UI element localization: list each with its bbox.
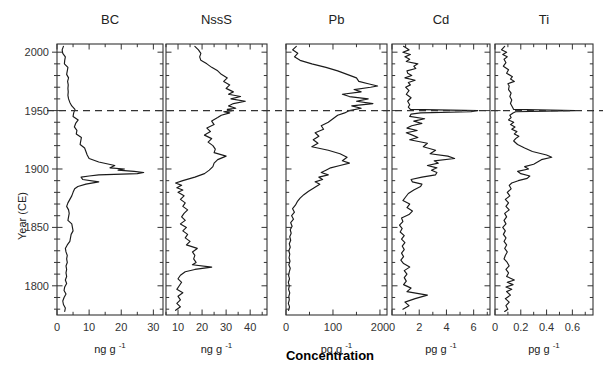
multi-panel-profile-figure: BCNssSPbCdTi180018501900195020000102030n…: [0, 0, 616, 374]
unit-label-bc: ng g -1: [94, 341, 126, 355]
data-line-nsss: [176, 46, 246, 310]
panel-title-bc: BC: [101, 12, 119, 27]
y-axis-label: Year (CE): [16, 192, 28, 240]
x-ticks: [166, 44, 262, 315]
x-tick-label-ti-2: 0.4: [539, 321, 554, 333]
x-axis-label: Concentration: [286, 348, 374, 363]
x-ticks: [57, 44, 153, 315]
x-tick-label-ti-3: 0.6: [565, 321, 580, 333]
x-tick-label-ti-1: 0.2: [513, 321, 528, 333]
x-tick-label-bc-2: 20: [115, 321, 127, 333]
unit-label-nsss: ng g -1: [201, 341, 233, 355]
x-tick-label-ti-0: 0: [492, 321, 498, 333]
panel-cd: [392, 44, 490, 315]
x-tick-label-nsss-3: 40: [244, 321, 256, 333]
chart-canvas: [0, 0, 616, 374]
unit-exponent: -1: [553, 341, 560, 350]
panel-title-nsss: NssS: [201, 12, 232, 27]
data-line-ti: [501, 46, 575, 311]
x-tick-label-pb-0: 0: [283, 321, 289, 333]
x-tick-label-cd-0: 0: [389, 321, 395, 333]
panel-frame: [57, 44, 163, 315]
unit-base: pg g: [425, 343, 449, 355]
panel-title-pb: Pb: [329, 12, 345, 27]
y-tick-label-1900: 1900: [0, 163, 49, 175]
x-ticks: [286, 44, 380, 315]
unit-label-cd: pg g -1: [425, 341, 457, 355]
x-tick-label-nsss-0: 10: [172, 321, 184, 333]
panel-title-cd: Cd: [433, 12, 450, 27]
unit-base: ng g: [201, 343, 225, 355]
unit-exponent: -1: [450, 341, 457, 350]
x-tick-label-cd-2: 4: [443, 321, 449, 333]
panel-ti: [495, 44, 593, 315]
x-tick-label-pb-2: 200: [371, 321, 389, 333]
panel-frame: [495, 44, 593, 315]
unit-base: ng g: [94, 343, 118, 355]
unit-exponent: -1: [225, 341, 232, 350]
unit-base: pg g: [528, 343, 552, 355]
x-tick-label-bc-0: 0: [54, 321, 60, 333]
y-ticks: [392, 52, 490, 309]
x-tick-label-nsss-2: 30: [220, 321, 232, 333]
y-tick-label-2000: 2000: [0, 46, 49, 58]
unit-label-ti: pg g -1: [528, 341, 560, 355]
data-line-cd: [399, 46, 477, 309]
x-tick-label-bc-1: 10: [83, 321, 95, 333]
panel-pb: [286, 44, 387, 315]
panel-nsss: [166, 44, 267, 315]
x-tick-label-nsss-1: 20: [196, 321, 208, 333]
panel-bc: [52, 44, 163, 315]
data-line-pb: [288, 46, 377, 310]
y-ticks: [286, 52, 387, 309]
x-tick-label-cd-1: 2: [416, 321, 422, 333]
x-tick-label-pb-1: 100: [324, 321, 342, 333]
data-line-bc: [62, 46, 144, 311]
y-tick-label-1950: 1950: [0, 105, 49, 117]
x-tick-label-bc-3: 30: [147, 321, 159, 333]
unit-exponent: -1: [119, 341, 126, 350]
panel-title-ti: Ti: [539, 12, 549, 27]
x-tick-label-cd-3: 6: [471, 321, 477, 333]
y-tick-label-1800: 1800: [0, 280, 49, 292]
